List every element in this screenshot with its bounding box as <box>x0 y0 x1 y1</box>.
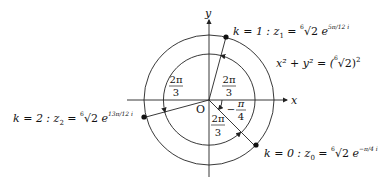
point-k1 <box>223 34 228 39</box>
y-axis-label: y <box>204 7 212 20</box>
svg-text:π: π <box>237 98 245 109</box>
circle-equation: x² + y² = (6√2)2 <box>276 54 361 70</box>
svg-text:2π: 2π <box>212 113 225 124</box>
radius-k1 <box>209 37 226 100</box>
arc-k2-to-k0 <box>165 112 241 145</box>
x-axis-label: x <box>291 94 298 107</box>
svg-text:3: 3 <box>215 127 221 138</box>
angle-minus-pi-4-arc <box>219 100 223 110</box>
svg-text:−: − <box>227 104 235 115</box>
svg-text:3: 3 <box>173 87 179 98</box>
svg-text:2π: 2π <box>223 74 236 85</box>
angle-label-upper-right: 2π 3 <box>222 74 236 98</box>
axes <box>127 20 287 177</box>
root-label-k2: k = 2 : z2 = 6√2 e13π/12 i <box>13 110 133 127</box>
svg-text:3: 3 <box>226 87 232 98</box>
complex-roots-diagram: y x O 2π 3 2π 3 2π 3 − π 4 x² + y² = (6√… <box>0 0 389 186</box>
radius-lines <box>146 37 255 146</box>
point-k0 <box>253 142 258 147</box>
angle-label-lower: 2π 3 <box>211 113 225 138</box>
svg-text:k = 1 : z1 = 6√2 e5π/12 i: k = 1 : z1 = 6√2 e5π/12 i <box>233 23 349 40</box>
angle-label-minus-pi-4: − π 4 <box>227 98 246 122</box>
svg-text:x² + y² = (6√2)2: x² + y² = (6√2)2 <box>276 54 361 70</box>
svg-text:k = 0 : z0 = 6√2 e−π/4 i: k = 0 : z0 = 6√2 e−π/4 i <box>264 145 378 162</box>
root-label-k0: k = 0 : z0 = 6√2 e−π/4 i <box>264 145 378 162</box>
svg-text:k = 2 : z2 = 6√2 e13π/12 i: k = 2 : z2 = 6√2 e13π/12 i <box>13 110 133 127</box>
svg-text:2π: 2π <box>170 74 183 85</box>
root-label-k1: k = 1 : z1 = 6√2 e5π/12 i <box>233 23 349 40</box>
origin-label: O <box>196 103 205 116</box>
angle-label-upper-left: 2π 3 <box>169 74 183 98</box>
point-k2 <box>141 114 146 119</box>
svg-text:4: 4 <box>238 111 244 122</box>
